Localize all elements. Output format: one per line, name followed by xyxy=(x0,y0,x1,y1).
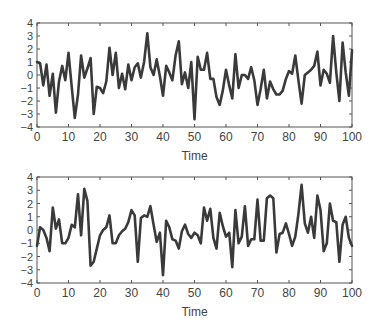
x-tick-label: 80 xyxy=(282,130,296,144)
x-tick-label: 60 xyxy=(219,286,233,300)
y-tick-label: −2 xyxy=(20,95,33,107)
y-tick-label: 3 xyxy=(27,184,33,196)
y-tick-label: 0 xyxy=(27,69,33,81)
y-tick-label: −1 xyxy=(20,237,33,249)
x-tick-label: 30 xyxy=(125,286,139,300)
x-tick-label: 90 xyxy=(314,130,328,144)
x-tick-label: 90 xyxy=(314,286,328,300)
y-tick-label: −3 xyxy=(20,264,33,276)
x-tick-label: 100 xyxy=(342,286,362,300)
y-tick-label: 2 xyxy=(27,198,33,210)
x-tick-label: 20 xyxy=(93,286,107,300)
x-tick-label: 10 xyxy=(62,130,76,144)
y-tick-label: −3 xyxy=(20,108,33,120)
x-tick-label: 70 xyxy=(251,130,265,144)
x-tick-label: 0 xyxy=(34,286,41,300)
top-time-series-plot: 010203040506070809010043210−1−2−3−4Time xyxy=(20,17,362,163)
x-tick-label: 50 xyxy=(188,130,202,144)
x-tick-label: 70 xyxy=(251,286,265,300)
y-tick-label: 4 xyxy=(27,17,33,29)
x-tick-label: 100 xyxy=(342,130,362,144)
x-tick-label: 80 xyxy=(282,286,296,300)
y-tick-label: −2 xyxy=(20,251,33,263)
x-tick-label: 10 xyxy=(62,286,76,300)
y-tick-label: −4 xyxy=(20,277,33,289)
chart-canvas: 010203040506070809010043210−1−2−3−4Time … xyxy=(0,0,380,330)
y-tick-label: 1 xyxy=(27,56,33,68)
x-tick-label: 50 xyxy=(188,286,202,300)
y-tick-label: 3 xyxy=(27,30,33,42)
y-tick-label: 4 xyxy=(27,171,33,183)
x-axis-label: Time xyxy=(181,149,208,163)
y-tick-label: 2 xyxy=(27,43,33,55)
x-tick-label: 60 xyxy=(219,130,233,144)
x-tick-label: 40 xyxy=(156,286,170,300)
x-tick-label: 40 xyxy=(156,130,170,144)
figure: 010203040506070809010043210−1−2−3−4Time … xyxy=(0,0,380,330)
y-tick-label: −1 xyxy=(20,82,33,94)
bottom-time-series-plot: 010203040506070809010043210−1−2−3−4Time xyxy=(20,171,362,319)
x-tick-label: 30 xyxy=(125,130,139,144)
y-tick-label: 0 xyxy=(27,224,33,236)
x-axis-label: Time xyxy=(181,305,208,319)
y-tick-label: −4 xyxy=(20,121,33,133)
x-tick-label: 20 xyxy=(93,130,107,144)
x-tick-label: 0 xyxy=(34,130,41,144)
y-tick-label: 1 xyxy=(27,211,33,223)
